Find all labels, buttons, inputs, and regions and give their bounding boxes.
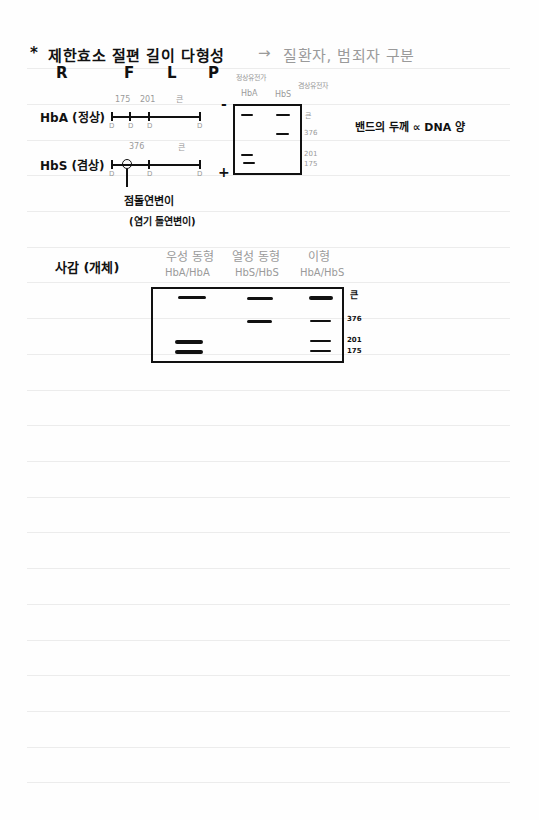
site-mark: D [128, 122, 133, 130]
segment-large: 큰 [178, 141, 185, 152]
rule-line [27, 675, 510, 676]
gel-band [310, 320, 331, 322]
site-mark: D [147, 122, 152, 130]
cut-site [148, 160, 150, 169]
acronym-f: F [124, 64, 134, 82]
gel-band [175, 350, 203, 354]
minus-sign: - [221, 96, 227, 112]
rule-line [27, 211, 510, 212]
rule-line [27, 532, 510, 533]
segment-201: 201 [140, 95, 155, 104]
rule-line [27, 640, 510, 641]
carrier-gene-label: 겸상유전자 [298, 80, 328, 90]
acronym-p: P [208, 64, 219, 82]
cut-site [111, 160, 113, 169]
star-bullet: * [30, 44, 38, 62]
size-label-376: 376 [304, 129, 317, 137]
gel-band [241, 154, 253, 156]
gel-band [243, 162, 255, 164]
segment-376: 376 [129, 142, 144, 151]
gel-band [175, 340, 203, 344]
site-mark: D [109, 170, 114, 178]
lane-hba-label: HbA [241, 89, 258, 98]
band-thickness-note: 밴드의 두께 ∝ DNA 양 [355, 118, 465, 134]
rule-line [27, 390, 510, 391]
gel-band [247, 320, 272, 323]
rule-line [27, 711, 510, 712]
segment-large: 큰 [176, 93, 183, 104]
cut-site [199, 160, 201, 169]
rule-line [27, 568, 510, 569]
lane3-genotype: HbA/HbS [300, 267, 344, 278]
site-mark: D [197, 122, 202, 130]
cut-site [148, 112, 150, 121]
rule-line [27, 425, 510, 426]
lane-hbs-label: HbS [275, 90, 291, 99]
lane2-type: 열성 동형 [232, 247, 280, 264]
rule-line [27, 68, 510, 69]
mutation-label: 점돌연변이 [124, 192, 174, 208]
size-label-376: 376 [347, 315, 362, 323]
rule-line [27, 497, 510, 498]
gel-band [276, 114, 290, 116]
lane1-genotype: HbA/HbA [165, 267, 210, 278]
acronym-l: L [167, 64, 177, 82]
plus-sign: + [218, 164, 230, 180]
acronym-r: R [56, 64, 68, 82]
dna-strand [111, 116, 201, 118]
rule-line [27, 461, 510, 462]
rule-line [27, 604, 510, 605]
rule-line [27, 282, 510, 283]
site-mark: D [147, 170, 152, 178]
gel-band [241, 114, 253, 116]
size-label-large: 큰 [350, 288, 358, 301]
mutation-sublabel: (염기 돌연변이) [129, 213, 196, 228]
gel-band [310, 350, 331, 352]
size-label-large: 큰 [305, 110, 311, 120]
gel-band [309, 296, 333, 300]
purpose-text: 질환자, 범죄자 구분 [283, 44, 415, 65]
arrow-icon: → [258, 44, 271, 62]
hbs-label: HbS (겸상) [40, 156, 104, 173]
normal-gene-label: 정상유전가 [236, 72, 266, 82]
section2-title: 사감 (개체) [55, 257, 119, 276]
lane2-genotype: HbS/HbS [235, 267, 279, 278]
site-mark: D [197, 170, 202, 178]
site-mark: D [109, 122, 114, 130]
size-label-201: 201 [347, 336, 362, 344]
lane1-type: 우성 동형 [166, 247, 214, 264]
cut-site [111, 112, 113, 121]
size-label-175: 175 [347, 347, 362, 355]
hba-label: HbA (정상) [40, 108, 105, 125]
gel-band [276, 133, 289, 135]
gel-band [310, 340, 331, 342]
rule-line [27, 175, 510, 176]
segment-175: 175 [115, 95, 130, 104]
cut-site [199, 112, 201, 121]
lane3-type: 이형 [308, 247, 330, 264]
page-title: 제한효소 절편 길이 다형성 [48, 44, 225, 65]
rule-line [27, 782, 510, 783]
gel-band [178, 296, 206, 299]
gel-band [247, 297, 273, 300]
cut-site [129, 112, 131, 121]
mutation-arrow-icon [126, 169, 128, 187]
mutation-circle-icon [122, 159, 132, 169]
rule-line [27, 747, 510, 748]
size-label-201: 201 [304, 150, 317, 158]
size-label-175: 175 [304, 160, 317, 168]
